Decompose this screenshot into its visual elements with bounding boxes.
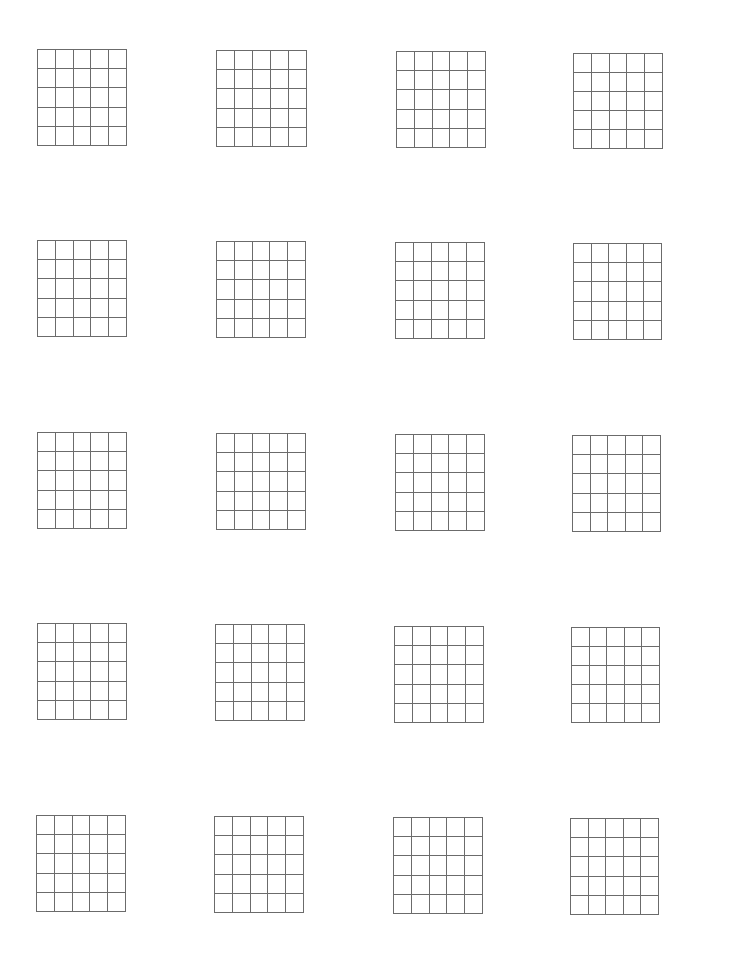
grid-cell [235,128,253,147]
grid-cell [251,817,269,836]
grid-cell [38,452,56,471]
grid-cell [56,510,74,529]
grid-cell [215,855,233,874]
grid-cell [432,262,450,281]
grid-cell [394,818,412,837]
grid-cell [235,300,253,319]
grid-cell [395,646,413,665]
grid-cell [449,243,467,262]
grid-cell [397,52,415,71]
grid-cell [627,244,645,263]
grid-cell [395,685,413,704]
grid-cell [466,665,484,684]
grid-cell [412,837,430,856]
grid-cell [253,70,271,89]
grid-cell [271,70,289,89]
grid-cell [233,894,251,913]
grid-cell [449,435,467,454]
grid-cell [465,856,483,875]
grid-cell [645,130,663,149]
grid-cell [571,857,589,876]
grid-cell [109,643,127,662]
grid-cell [592,302,610,321]
grid-cell [413,627,431,646]
grid-cell [91,491,109,510]
grid-cell [624,819,642,838]
grid-cell [449,320,467,339]
grid-cell [74,127,92,146]
grid-cell [91,643,109,662]
grid-cell [467,301,485,320]
grid-cell [467,473,485,492]
blank-grid-8 [573,243,662,340]
grid-cell [234,644,252,663]
grid-cell [431,665,449,684]
grid-cell [269,683,287,702]
grid-cell [73,893,91,912]
grid-cell [466,704,484,723]
grid-cell [592,111,610,130]
grid-cell [235,492,253,511]
grid-cell [56,279,74,298]
grid-cell [415,52,433,71]
grid-cell [606,896,624,915]
grid-cell [589,838,607,857]
grid-cell [289,128,307,147]
blank-grid-17 [36,815,126,912]
grid-cell [38,433,56,452]
grid-cell [396,454,414,473]
grid-cell [74,108,92,127]
grid-cell [253,472,271,491]
grid-cell [414,320,432,339]
grid-cell [91,471,109,490]
grid-cell [592,263,610,282]
grid-cell [571,877,589,896]
grid-cell [394,895,412,914]
grid-cell [606,819,624,838]
grid-cell [234,663,252,682]
grid-cell [468,110,486,129]
grid-cell [269,663,287,682]
grid-cell [627,92,645,111]
grid-cell [287,663,305,682]
grid-cell [642,704,660,723]
grid-cell [448,685,466,704]
grid-cell [91,624,109,643]
grid-cell [431,685,449,704]
grid-cell [109,69,127,88]
grid-cell [37,874,55,893]
grid-cell [38,662,56,681]
grid-cell [215,894,233,913]
grid-cell [91,433,109,452]
grid-cell [216,625,234,644]
grid-cell [397,71,415,90]
grid-cell [109,471,127,490]
grid-cell [433,71,451,90]
grid-cell [108,874,126,893]
grid-cell [394,837,412,856]
grid-cell [287,683,305,702]
grid-cell [217,242,235,261]
grid-cell [74,701,92,720]
grid-cell [289,51,307,70]
grid-cell [109,279,127,298]
grid-cell [109,318,127,337]
grid-cell [396,473,414,492]
grid-cell [607,647,625,666]
grid-cell [270,242,288,261]
grid-cell [447,876,465,895]
grid-cell [592,244,610,263]
grid-cell [572,647,590,666]
grid-cell [627,263,645,282]
grid-cell [38,624,56,643]
grid-cell [627,302,645,321]
grid-cell [252,644,270,663]
grid-cell [289,89,307,108]
grid-cell [38,682,56,701]
grid-cell [573,455,591,474]
grid-cell [608,436,626,455]
grid-cell [643,513,661,532]
grid-cell [74,241,92,260]
grid-cell [644,263,662,282]
grid-cell [450,71,468,90]
